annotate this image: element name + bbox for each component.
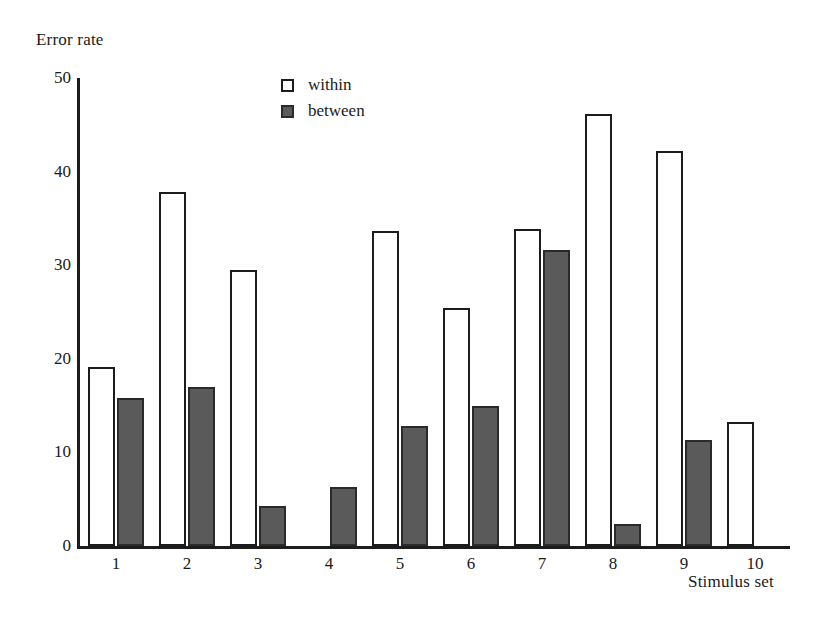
x-axis-line	[77, 546, 790, 549]
bar-between-3	[259, 506, 286, 546]
bar-within-5	[372, 231, 399, 546]
bar-within-2	[159, 192, 186, 546]
bar-within-10	[727, 422, 754, 546]
x-tick-label: 1	[112, 554, 121, 574]
x-tick-label: 5	[396, 554, 405, 574]
y-tick-label: 30	[54, 255, 71, 275]
y-axis-line	[77, 78, 80, 547]
bar-within-1	[88, 367, 115, 546]
y-tick-label: 10	[54, 442, 71, 462]
bar-between-4	[330, 487, 357, 546]
y-tick-label: 20	[54, 349, 71, 369]
bar-within-7	[514, 229, 541, 546]
x-tick-label: 8	[609, 554, 618, 574]
x-tick-label: 7	[538, 554, 547, 574]
x-tick-label: 10	[747, 554, 764, 574]
y-tick-label: 0	[63, 536, 72, 556]
bar-within-9	[656, 151, 683, 546]
bar-chart-figure: Error rate within between 01020304050123…	[0, 0, 829, 627]
bar-between-7	[543, 250, 570, 546]
y-axis-title: Error rate	[36, 30, 104, 50]
bar-within-8	[585, 114, 612, 546]
x-axis-title: Stimulus set	[688, 572, 774, 592]
x-tick-label: 6	[467, 554, 476, 574]
x-tick-label: 9	[680, 554, 689, 574]
bar-between-1	[117, 398, 144, 546]
y-tick-label: 50	[54, 68, 71, 88]
x-tick-label: 2	[183, 554, 192, 574]
bar-between-6	[472, 406, 499, 546]
bar-between-9	[685, 440, 712, 546]
bar-within-3	[230, 270, 257, 546]
bar-between-2	[188, 387, 215, 546]
x-tick-label: 4	[325, 554, 334, 574]
bar-between-5	[401, 426, 428, 546]
x-tick-label: 3	[254, 554, 263, 574]
plot-area: 0102030405012345678910	[80, 78, 790, 546]
bar-within-6	[443, 308, 470, 546]
y-tick-label: 40	[54, 162, 71, 182]
bar-between-8	[614, 524, 641, 546]
